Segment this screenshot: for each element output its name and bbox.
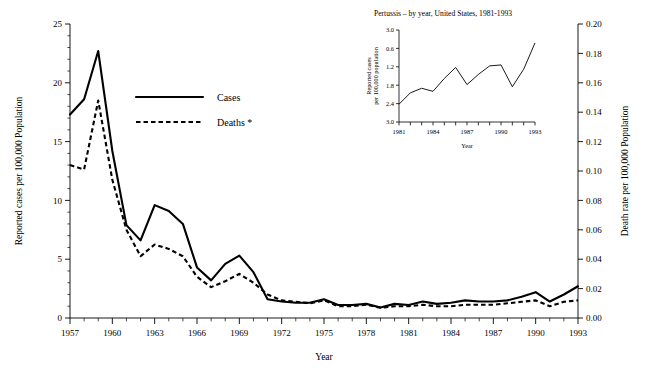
main-x-tick-label: 1963: [146, 328, 165, 338]
legend-deaths-label: Deaths *: [217, 117, 252, 128]
inset-y-tick-label: 0.6: [386, 45, 394, 52]
main-y2-tick-label: 0.06: [586, 225, 602, 235]
pertussis-chart-svg: 05101520250.000.020.040.060.080.100.120.…: [0, 0, 648, 370]
main-x-tick-label: 1966: [188, 328, 207, 338]
main-y-axis-title: Reported cases per 100,000 Population: [14, 96, 24, 245]
inset-y-tick-label: 1.2: [386, 63, 394, 70]
main-y2-tick-label: 0.00: [586, 313, 602, 323]
main-x-tick-label: 1984: [442, 328, 461, 338]
main-y-tick-label: 20: [53, 78, 63, 88]
main-x-tick-label: 1990: [527, 328, 546, 338]
inset-x-tick-label: 1990: [495, 128, 508, 135]
main-y2-tick-label: 0.12: [586, 137, 602, 147]
main-x-tick-label: 1969: [230, 328, 249, 338]
main-x-tick-label: 1960: [103, 328, 122, 338]
main-x-tick-label: 1957: [61, 328, 80, 338]
main-y-tick-label: 15: [53, 137, 63, 147]
main-y-tick-label: 0: [58, 313, 63, 323]
main-y2-tick-label: 0.20: [586, 19, 602, 29]
inset-y-axis-title-line1: Reported cases: [365, 57, 372, 95]
inset-x-tick-label: 1993: [529, 128, 542, 135]
cases-data-line: [70, 51, 578, 307]
main-x-tick-label: 1987: [484, 328, 503, 338]
inset-title: Pertussis – by year, United States, 1981…: [374, 9, 512, 18]
main-x-axis-title: Year: [315, 352, 333, 362]
inset-y-tick-label: 2.4: [386, 100, 395, 107]
inset-x-tick-label: 1984: [427, 128, 441, 135]
main-y2-tick-label: 0.18: [586, 49, 602, 59]
main-y-tick-label: 10: [53, 196, 63, 206]
inset-x-axis-title: Year: [461, 142, 472, 149]
main-y2-tick-label: 0.08: [586, 196, 602, 206]
inset-y-tick-label: 3.0: [386, 118, 394, 125]
main-x-tick-label: 1972: [273, 328, 291, 338]
main-y2-tick-label: 0.16: [586, 78, 602, 88]
main-y-tick-label: 25: [53, 19, 63, 29]
inset-y-tick-label: 3.0: [386, 26, 394, 33]
inset-y-tick-label: 1.8: [386, 82, 394, 89]
main-x-tick-label: 1981: [400, 328, 418, 338]
inset-x-tick-label: 1987: [461, 128, 475, 135]
main-y-tick-label: 5: [58, 254, 63, 264]
chart-figure: 05101520250.000.020.040.060.080.100.120.…: [0, 0, 648, 370]
inset-data-line: [399, 43, 535, 104]
main-y2-tick-label: 0.04: [586, 254, 602, 264]
main-x-tick-label: 1975: [315, 328, 334, 338]
main-y2-tick-label: 0.02: [586, 284, 602, 294]
main-y2-tick-label: 0.14: [586, 107, 602, 117]
main-x-tick-label: 1993: [569, 328, 588, 338]
main-y2-axis-title: Death rate per 100,000 Population: [620, 105, 630, 236]
legend-cases-label: Cases: [217, 92, 240, 103]
inset-y-axis-title-line2: per 100,000 population: [372, 47, 379, 105]
main-x-tick-label: 1978: [357, 328, 376, 338]
inset-x-tick-label: 1981: [393, 128, 406, 135]
main-y2-tick-label: 0.10: [586, 166, 602, 176]
